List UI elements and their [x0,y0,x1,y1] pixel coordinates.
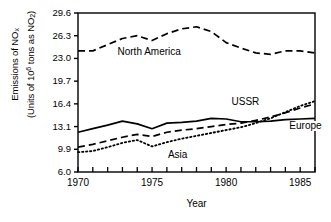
series-label-asia: Asia [167,150,188,160]
plot-frame [78,13,315,172]
x-axis-label: Year [78,198,315,209]
plot-area [0,0,331,222]
series-line-europe [78,118,315,132]
series-line-ussr [78,104,315,147]
series-label-north-america: North America [117,47,182,57]
series-line-asia [78,101,315,152]
chart-figure: Emissions of NOx (Units of 106 tons as N… [0,0,331,222]
series-label-ussr: USSR [231,97,261,107]
series-label-europe: Europe [288,121,322,131]
series-line-north-america [78,27,315,55]
